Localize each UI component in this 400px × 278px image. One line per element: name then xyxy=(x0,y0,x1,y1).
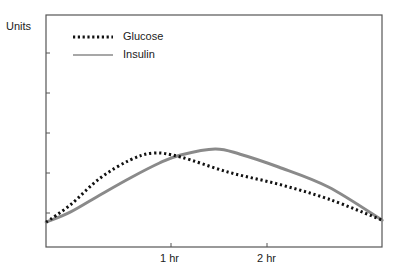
legend-glucose-label: Glucose xyxy=(123,30,163,42)
x-tick-label-1hr: 1 hr xyxy=(160,252,179,264)
insulin-line xyxy=(46,149,382,222)
y-axis-label: Units xyxy=(6,20,31,32)
x-tick-label-2hr: 2 hr xyxy=(257,252,276,264)
chart-canvas xyxy=(0,0,400,278)
legend-insulin-label: Insulin xyxy=(123,48,155,60)
x-axis-ticks xyxy=(171,243,267,247)
plot-frame xyxy=(46,15,382,247)
